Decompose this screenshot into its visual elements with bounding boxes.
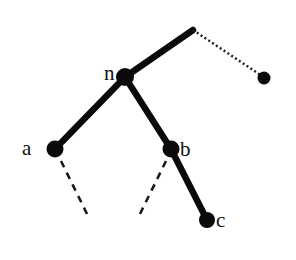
label-b: b (180, 137, 191, 161)
edges (55, 30, 262, 220)
edge-root-to-n (125, 30, 193, 77)
edge-n-to-b (125, 77, 171, 149)
node-right (258, 72, 271, 85)
node-c (199, 212, 215, 228)
node-b (163, 141, 180, 158)
edge-a-subtree-dashed (61, 161, 89, 218)
label-n: n (104, 61, 115, 85)
edge-n-to-a (55, 77, 125, 149)
edge-root-to-right-dotted (193, 30, 262, 76)
edge-b-subtree-dashed (138, 161, 166, 218)
nodes (47, 68, 271, 228)
label-a: a (22, 136, 32, 160)
node-n (116, 68, 134, 86)
label-c: c (216, 208, 225, 232)
node-a (47, 141, 64, 158)
tree-diagram: n a b c (0, 0, 296, 260)
